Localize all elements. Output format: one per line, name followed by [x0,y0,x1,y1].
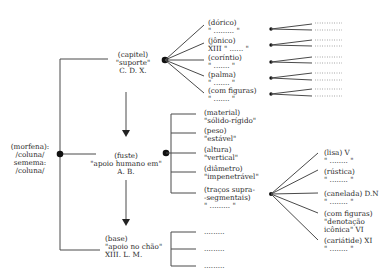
capitel-fan [162,25,204,93]
supra-child-cariatide: (cariátide) XI " ........ " [324,236,372,253]
capitel-child-com-figuras: (com figuras) " ....... " [208,86,257,103]
capitel-leaf-forks [269,23,342,96]
base-child-1: ......... [204,227,225,236]
fuste-child-diametro: (diâmetro) "impenetrável" [204,164,259,181]
fuste-child-altura: (altura) "vertical" [204,145,238,162]
leaf-fork-5 [269,89,342,96]
supra-child-com-figuras: (com figuras) "denotação icônica" VI [324,209,373,234]
svg-text:.........: ......... [204,261,225,270]
leaf-fork-1 [269,23,342,31]
svg-text:" ....... ": " ....... " [208,94,235,103]
capitel-child-jonico: (jônico) XIII " ...... " [208,36,249,53]
root-node-dot [57,151,64,158]
svg-text:.........: ......... [204,244,225,253]
root-bracket [57,59,108,250]
svg-text:.........: ......... [204,227,225,236]
svg-text:XIII " ...... ": XIII " ...... " [208,44,249,53]
svg-text:" ....... ": " ....... " [208,61,235,70]
fuste-child-peso: (peso) "estável" [204,126,236,143]
base-child-3: ......... [204,261,225,270]
fuste-child-material: (material) "sólido-rígido" [204,108,256,125]
svg-text:"vertical": "vertical" [204,153,238,162]
capitel-child-palma: (palma) " ....... " [208,70,236,87]
svg-text:"estável": "estável" [204,134,236,143]
svg-text:" ........ ": " ........ " [324,175,353,184]
svg-text:" ........ ": " ........ " [324,244,353,253]
svg-text:" ........ ": " ........ " [324,197,353,206]
capitel-node-label: (capitel) "suporte" C. D. X. [116,50,150,75]
fuste-child-tracos-supra-segmentais: (traços supra- -segmentais) " ......... … [204,185,255,210]
base-node-label: (base) "apoio no chão" XIII. L. M. [105,234,162,259]
supra-child-canelada: (canelada) D.N " ........ " [324,189,379,206]
base-child-2: ......... [204,244,225,253]
svg-text:C. D. X.: C. D. X. [119,66,146,75]
supra-segmental-fan [269,153,318,240]
capitel-child-corintio: (coríntio) " ....... " [208,53,242,70]
leaf-fork-3 [269,57,342,64]
leaf-fork-2 [269,40,342,47]
fuste-node-label: (fuste) "apoio humano em" A. B. [90,151,161,176]
svg-text:/coluna/: /coluna/ [15,166,45,175]
base-bracket [171,232,196,266]
svg-text:"sólido-rígido": "sólido-rígido" [204,116,256,125]
fuste-bracket [163,114,196,193]
svg-text:" ......... ": " ......... " [204,201,236,210]
arrow-capitel-to-fuste [122,92,130,137]
leaf-fork-4 [269,73,342,80]
root-node-label: (morfena): /coluna/ semema: /coluna/ [11,142,49,175]
svg-text:"impenetrável": "impenetrável" [204,172,259,181]
arrow-fuste-to-base [122,180,130,226]
svg-text:A. B.: A. B. [116,167,134,176]
supra-child-rustica: (rústica) " ........ " [324,167,355,184]
column-semantic-tree-diagram: (morfena): /coluna/ semema: /coluna/ (ca… [0,0,390,280]
supra-child-lisa: (lisa) V " ........ " [324,148,353,165]
svg-text:XIII. L. M.: XIII. L. M. [105,250,142,259]
svg-text:icônica" VI: icônica" VI [324,225,364,234]
svg-text:" ........ ": " ........ " [324,156,353,165]
capitel-child-dorico: (dórico) " ......... " [208,18,240,35]
svg-text:" ......... ": " ......... " [208,26,240,35]
